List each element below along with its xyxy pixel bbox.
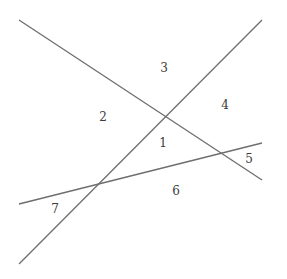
- region-label-4: 4: [221, 98, 229, 112]
- region-label-7: 7: [51, 202, 59, 216]
- region-label-5: 5: [245, 152, 253, 166]
- region-label-2: 2: [99, 110, 107, 124]
- line-c: [19, 143, 262, 204]
- line-b: [19, 20, 262, 264]
- three-lines-diagram: 1 2 3 4 5 6 7: [0, 0, 287, 279]
- region-label-1: 1: [159, 136, 167, 150]
- region-label-3: 3: [160, 61, 168, 75]
- region-label-6: 6: [172, 184, 180, 198]
